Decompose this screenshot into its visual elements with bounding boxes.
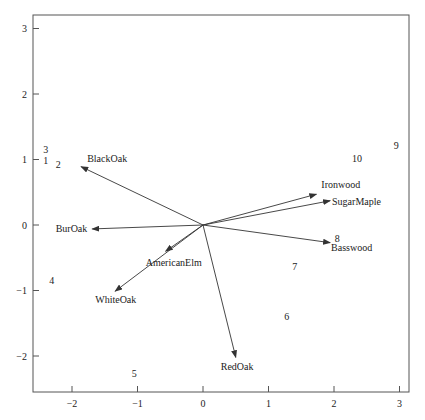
observation-label-6: 6 — [284, 311, 289, 322]
y-tick-label: 3 — [22, 23, 27, 34]
x-axis: −2−10123 — [67, 386, 402, 409]
observation-label-2: 2 — [56, 159, 61, 170]
observation-label-8: 8 — [335, 233, 340, 244]
observation-label-1: 1 — [43, 155, 48, 166]
y-tick-label: 0 — [22, 220, 27, 231]
x-tick-label: 2 — [332, 398, 337, 409]
x-tick-label: 0 — [201, 398, 206, 409]
variable-label-sugarmaple: SugarMaple — [332, 196, 381, 207]
variable-label-blackoak: BlackOak — [87, 153, 127, 164]
variable-label-ironwood: Ironwood — [321, 179, 360, 190]
variable-label-buroak: BurOak — [56, 223, 88, 234]
variable-label-redoak: RedOak — [221, 361, 254, 372]
variable-label-whiteoak: WhiteOak — [95, 294, 136, 305]
biplot-chart: −2−10123 −2−10123 BlackOakBurOakAmerican… — [0, 0, 425, 420]
variable-arrows: BlackOakBurOakAmericanElmWhiteOakRedOakI… — [56, 153, 382, 373]
y-tick-label: 1 — [22, 154, 27, 165]
x-tick-label: 3 — [397, 398, 402, 409]
biplot-svg: −2−10123 −2−10123 BlackOakBurOakAmerican… — [0, 0, 425, 420]
observation-label-4: 4 — [49, 275, 54, 286]
y-tick-label: 2 — [22, 89, 27, 100]
variable-label-americanelm: AmericanElm — [146, 257, 202, 268]
arrow-buroak — [92, 225, 203, 229]
observation-label-5: 5 — [132, 368, 137, 379]
x-tick-label: −1 — [132, 398, 143, 409]
arrow-redoak — [203, 225, 236, 357]
arrow-basswood — [203, 225, 330, 243]
x-tick-label: 1 — [266, 398, 271, 409]
y-axis: −2−10123 — [16, 23, 39, 362]
y-tick-label: −2 — [16, 351, 27, 362]
observation-labels: 12345678910 — [43, 140, 398, 378]
observation-label-10: 10 — [352, 153, 362, 164]
y-tick-label: −1 — [16, 285, 27, 296]
arrow-ironwood — [203, 194, 316, 225]
x-tick-label: −2 — [67, 398, 78, 409]
observation-label-3: 3 — [43, 144, 48, 155]
arrow-blackoak — [81, 167, 203, 225]
arrow-sugarmaple — [203, 201, 330, 225]
observation-label-9: 9 — [394, 140, 399, 151]
observation-label-7: 7 — [292, 261, 297, 272]
